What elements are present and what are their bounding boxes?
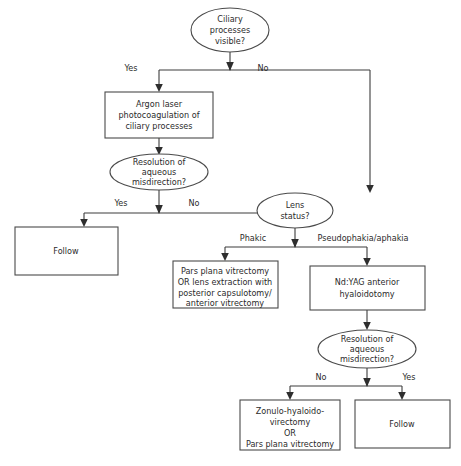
node-pars-plana-line-0: Pars plana vitrectomy <box>181 266 269 276</box>
arrow-no-to-lens <box>366 185 374 193</box>
arrow-res2-no-to-zonulo <box>286 392 294 400</box>
arrow-pseudophakia-to-ndyag <box>363 258 371 266</box>
edge-label-res1-yes: Yes <box>113 198 127 208</box>
node-resolution-2-line-2: misdirection? <box>340 354 394 364</box>
arrow-yes-to-argon <box>155 84 163 92</box>
edge-label-pseudophakia: Pseudophakia/aphakia <box>317 233 408 243</box>
flowchart-canvas: Ciliary processes visible? Yes No Argon … <box>0 0 461 466</box>
node-resolution-2-line-0: Resolution of <box>341 334 394 344</box>
edge-label-top-no: No <box>257 63 268 73</box>
node-zonulo-line-3: Pars plana vitrectomy <box>246 439 334 449</box>
arrow-phakic-to-parsplana <box>221 253 229 261</box>
edge-label-phakic: Phakic <box>240 233 266 243</box>
node-lens-status-line-0: Lens <box>286 200 305 210</box>
node-resolution-1-line-1: aqueous <box>142 167 177 177</box>
edge-label-res2-no: No <box>315 372 326 382</box>
node-resolution-1-line-2: misdirection? <box>132 177 186 187</box>
node-argon-laser-line-2: ciliary processes <box>125 121 192 131</box>
node-lens-status-line-1: status? <box>280 211 309 221</box>
node-zonulo-line-2: OR <box>284 428 296 438</box>
node-zonulo-line-0: Zonulo-hyaloido- <box>256 406 325 416</box>
edge-label-res2-yes: Yes <box>401 372 415 382</box>
node-resolution-1-line-0: Resolution of <box>133 157 186 167</box>
edge-label-top-yes: Yes <box>123 63 137 73</box>
node-pars-plana-line-2: posterior capsulotomy/ <box>178 288 272 298</box>
node-ndyag-line-1: hyaloidotomy <box>339 289 394 299</box>
node-resolution-2-line-1: aqueous <box>350 344 385 354</box>
node-ndyag-line-0: Nd:YAG anterior <box>335 277 400 287</box>
node-follow-right-label: Follow <box>389 419 415 429</box>
node-pars-plana-line-1: OR lens extraction with <box>178 277 273 287</box>
node-argon-laser-line-0: Argon laser <box>136 99 183 109</box>
flowchart-svg: Ciliary processes visible? Yes No Argon … <box>0 0 461 466</box>
node-argon-laser-line-1: photocoagulation of <box>118 110 199 120</box>
node-zonulo-line-1: virectomy <box>270 417 311 427</box>
node-pars-plana-line-3: anterior vitrectomy <box>186 298 264 308</box>
arrow-res2-yes-to-follow <box>398 392 406 400</box>
arrow-ndyag-to-res2 <box>363 322 371 330</box>
node-ciliary-processes-line-2: visible? <box>215 36 245 46</box>
edge-label-res1-no: No <box>188 198 199 208</box>
node-ciliary-processes-line-0: Ciliary <box>217 14 243 24</box>
node-follow-left-label: Follow <box>53 246 79 256</box>
arrow-res1-yes-to-follow <box>80 219 88 227</box>
node-ciliary-processes-line-1: processes <box>210 25 250 35</box>
